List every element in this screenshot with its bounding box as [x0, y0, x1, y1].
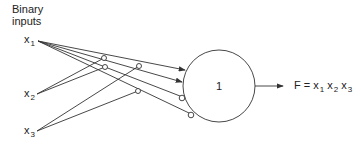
term-name: x: [327, 79, 333, 91]
inhibitory-input-icon: [179, 95, 185, 101]
inputs-heading: Binary inputs: [12, 3, 43, 27]
term-name: x: [313, 79, 319, 91]
heading-line2: inputs: [12, 15, 43, 27]
junction-node: [102, 56, 107, 61]
edge-x2-b: [37, 67, 105, 94]
edge-x1-excitatory: [38, 41, 185, 70]
edge-x3-b: [37, 91, 138, 131]
junction-node: [136, 89, 141, 94]
junction-node: [137, 64, 142, 69]
inhibitory-input-icon: [188, 112, 194, 118]
term-sub: 3: [348, 85, 352, 94]
heading-line1: Binary: [12, 3, 43, 15]
var-name: x: [24, 124, 30, 136]
term-name: x: [341, 79, 347, 91]
junction-node: [103, 65, 108, 70]
var-name: x: [24, 87, 30, 99]
input-x2: x2: [24, 87, 35, 101]
var-sub: 2: [31, 93, 35, 102]
input-x1: x1: [24, 33, 35, 47]
edge-x1-d: [38, 41, 189, 113]
edge-x3-a: [37, 66, 139, 131]
edge-x1-c: [38, 41, 180, 96]
network-diagram: [0, 0, 361, 146]
var-sub: 3: [31, 130, 35, 139]
edge-x1-b: [38, 41, 182, 82]
term-sub: 1: [320, 85, 324, 94]
edge-x2-a: [37, 58, 104, 94]
var-sub: 1: [31, 39, 35, 48]
var-name: x: [24, 33, 30, 45]
neuron-threshold: 1: [216, 80, 222, 92]
output-label: F =: [294, 79, 310, 91]
input-x3: x3: [24, 124, 35, 138]
output-formula: F = x1 x2 x3: [294, 79, 352, 93]
term-sub: 2: [334, 85, 338, 94]
